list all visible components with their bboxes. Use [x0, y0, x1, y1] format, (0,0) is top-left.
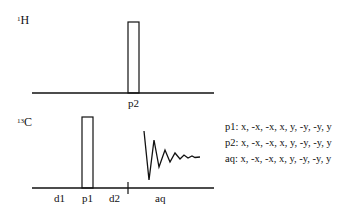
label-aq: aq [155, 193, 165, 204]
p1-pulse [82, 117, 93, 188]
p2-pulse [128, 22, 139, 93]
phase-cycle-aq: aq: x, -x, -x, x, y, -y, -y, y [225, 153, 331, 165]
label-d2: d2 [109, 193, 120, 204]
pulse-sequence-canvas [0, 0, 359, 211]
phase-cycle-p2: p2: x, -x, -x, x, y, -y, -y, y [225, 137, 332, 149]
label-d1: d1 [54, 193, 65, 204]
channel-label-1h: 1H [17, 14, 29, 26]
phase-cycle-p1: p1: x, -x, -x, x, y, -y, -y, y [225, 121, 332, 133]
label-p2: p2 [128, 98, 139, 109]
label-p1: p1 [82, 193, 93, 204]
channel-label-13c: 13C [17, 116, 32, 128]
fid-signal [144, 131, 200, 180]
